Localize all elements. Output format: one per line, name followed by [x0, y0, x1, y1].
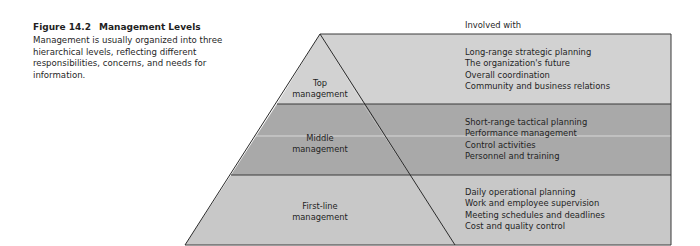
level-label-line: management — [260, 212, 380, 223]
list-item: Meeting schedules and deadlines — [465, 210, 605, 221]
responsibilities-middle: Short-range tactical planning Performanc… — [465, 117, 587, 163]
list-item: The organization's future — [465, 58, 610, 69]
list-item: Control activities — [465, 140, 587, 151]
level-label-top: Top management — [260, 78, 380, 100]
list-item: Community and business relations — [465, 81, 610, 92]
list-item: Daily operational planning — [465, 187, 605, 198]
level-label-line: Middle — [260, 133, 380, 144]
level-label-line: Top — [260, 78, 380, 89]
list-item: Performance management — [465, 128, 587, 139]
level-label-middle: Middle management — [260, 133, 380, 155]
list-item: Cost and quality control — [465, 221, 605, 232]
list-item: Short-range tactical planning — [465, 117, 587, 128]
responsibilities-first-line: Daily operational planning Work and empl… — [465, 187, 605, 233]
level-label-line: management — [260, 89, 380, 100]
column-header: Involved with — [465, 20, 521, 30]
list-item: Personnel and training — [465, 151, 587, 162]
list-item: Work and employee supervision — [465, 198, 605, 209]
level-label-first-line: First-line management — [260, 201, 380, 223]
list-item: Long-range strategic planning — [465, 47, 610, 58]
level-label-line: First-line — [260, 201, 380, 212]
list-item: Overall coordination — [465, 70, 610, 81]
level-label-line: management — [260, 144, 380, 155]
responsibilities-top: Long-range strategic planning The organi… — [465, 47, 610, 93]
